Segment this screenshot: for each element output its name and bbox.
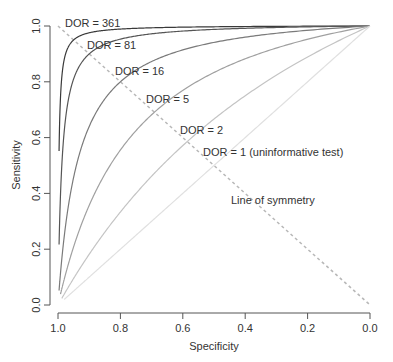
y-tick-label: 0.2 [30, 242, 42, 257]
x-tick-label: 0.2 [300, 322, 315, 334]
y-tick-label: 0.4 [30, 186, 42, 201]
y-tick-label: 0.0 [30, 297, 42, 312]
curve-label-dor-16: DOR = 16 [115, 65, 164, 77]
x-axis: 1.00.80.60.40.20.0 Specificity [50, 313, 377, 352]
x-tick-label: 0.4 [238, 322, 253, 334]
symmetry-label: Line of symmetry [231, 194, 315, 206]
x-tick-label: 0.8 [113, 322, 128, 334]
y-tick-label: 0.6 [30, 130, 42, 145]
curve-label-dor-2: DOR = 2 [180, 124, 223, 136]
curve-label-dor-361: DOR = 361 [65, 17, 120, 29]
x-tick-label: 1.0 [50, 322, 65, 334]
roc-curve-dor-1 [64, 26, 370, 299]
roc-dor-chart: DOR = 361DOR = 81DOR = 16DOR = 5DOR = 2D… [0, 0, 393, 362]
curve-label-dor-1: DOR = 1 (uninformative test) [203, 146, 343, 158]
roc-curves [59, 26, 370, 299]
curve-label-dor-5: DOR = 5 [146, 93, 189, 105]
x-axis-label: Specificity [189, 340, 239, 352]
y-axis-label: Sensitivity [10, 140, 22, 190]
x-tick-label: 0.0 [362, 322, 377, 334]
roc-curve-dor-5 [61, 26, 371, 294]
roc-curve-dor-16 [59, 26, 370, 291]
curve-label-dor-81: DOR = 81 [87, 39, 136, 51]
y-tick-label: 1.0 [30, 18, 42, 33]
y-tick-label: 0.8 [30, 74, 42, 89]
x-tick-label: 0.6 [175, 322, 190, 334]
y-axis: 0.00.20.40.60.81.0 Sensitivity [10, 18, 50, 312]
